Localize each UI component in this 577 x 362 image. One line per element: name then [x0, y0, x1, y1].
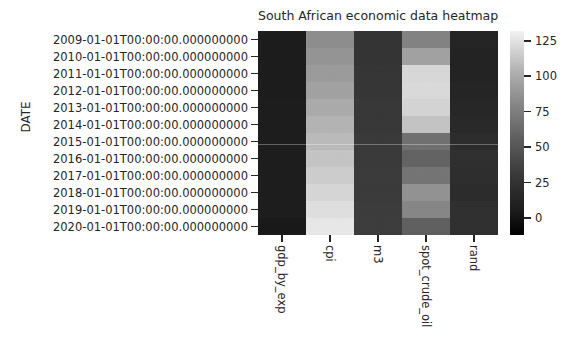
heatmap-cell[interactable]	[354, 167, 402, 184]
x-tick-label: m3	[371, 245, 385, 264]
heatmap-cell[interactable]	[258, 150, 306, 167]
y-tick-2014: 2014-01-01T00:00:00.000000000	[0, 118, 258, 132]
heatmap-column-m3[interactable]	[354, 31, 402, 235]
heatmap-cell[interactable]	[402, 31, 450, 48]
colorbar-tick-label: 75	[535, 105, 550, 119]
y-tick-mark	[251, 124, 258, 126]
heatmap-cell[interactable]	[450, 184, 498, 201]
y-tick-mark	[251, 141, 258, 143]
heatmap-figure: South African economic data heatmap DATE…	[0, 0, 577, 362]
colorbar-tick-label: 100	[535, 69, 557, 83]
x-tick-label: cpi	[323, 245, 337, 262]
heatmap-cell[interactable]	[258, 133, 306, 150]
heatmap-column-spot_crude_oil[interactable]	[402, 31, 450, 235]
y-tick-mark	[251, 56, 258, 58]
heatmap-cell[interactable]	[402, 133, 450, 150]
y-tick-2019: 2019-01-01T00:00:00.000000000	[0, 203, 258, 217]
heatmap-cell[interactable]	[354, 31, 402, 48]
heatmap-cell[interactable]	[306, 31, 354, 48]
x-tick-label: gdp_by_exp	[275, 245, 289, 313]
colorbar-tick-mark	[524, 40, 531, 42]
heatmap-column-rand[interactable]	[450, 31, 498, 235]
y-tick-mark	[251, 226, 258, 228]
heatmap-cell[interactable]	[354, 99, 402, 116]
heatmap-cell[interactable]	[354, 82, 402, 99]
heatmap-cell[interactable]	[402, 218, 450, 235]
heatmap-cell[interactable]	[450, 31, 498, 48]
x-tick-rand: rand	[450, 235, 498, 362]
heatmap-cell[interactable]	[258, 218, 306, 235]
heatmap-cell[interactable]	[354, 65, 402, 82]
y-tick-2009: 2009-01-01T00:00:00.000000000	[0, 33, 258, 47]
heatmap-cell[interactable]	[306, 218, 354, 235]
heatmap-cell[interactable]	[354, 150, 402, 167]
heatmap-cell[interactable]	[402, 82, 450, 99]
heatmap-cell[interactable]	[402, 184, 450, 201]
heatmap-cell[interactable]	[402, 150, 450, 167]
y-tick-2018: 2018-01-01T00:00:00.000000000	[0, 186, 258, 200]
heatmap-cell[interactable]	[354, 201, 402, 218]
heatmap-cell[interactable]	[306, 82, 354, 99]
colorbar-tick-label: 125	[535, 34, 557, 48]
heatmap-plot-area[interactable]	[258, 31, 498, 235]
heatmap-cell[interactable]	[258, 65, 306, 82]
heatmap-cell[interactable]	[450, 48, 498, 65]
heatmap-cell[interactable]	[402, 65, 450, 82]
heatmap-cell[interactable]	[306, 150, 354, 167]
heatmap-cell[interactable]	[450, 167, 498, 184]
y-tick-label: 2013-01-01T00:00:00.000000000	[53, 101, 248, 115]
heatmap-cell[interactable]	[258, 99, 306, 116]
y-tick-2017: 2017-01-01T00:00:00.000000000	[0, 169, 258, 183]
heatmap-cell[interactable]	[258, 31, 306, 48]
heatmap-cell[interactable]	[402, 48, 450, 65]
heatmap-column-cpi[interactable]	[306, 31, 354, 235]
heatmap-cell[interactable]	[306, 133, 354, 150]
x-tick-label: rand	[467, 245, 481, 271]
x-tick-label-wrap: rand	[467, 245, 481, 360]
heatmap-column-gdp_by_exp[interactable]	[258, 31, 306, 235]
y-tick-label: 2020-01-01T00:00:00.000000000	[53, 220, 248, 234]
heatmap-cell[interactable]	[306, 65, 354, 82]
heatmap-cell[interactable]	[450, 116, 498, 133]
x-tick-gdp_by_exp: gdp_by_exp	[258, 235, 306, 362]
heatmap-cell[interactable]	[354, 116, 402, 133]
heatmap-cell[interactable]	[354, 133, 402, 150]
heatmap-cell[interactable]	[306, 201, 354, 218]
heatmap-cell[interactable]	[450, 133, 498, 150]
heatmap-cell[interactable]	[450, 218, 498, 235]
heatmap-cell[interactable]	[402, 99, 450, 116]
colorbar-tick-125: 125	[510, 34, 577, 48]
heatmap-cell[interactable]	[402, 116, 450, 133]
heatmap-cell[interactable]	[450, 65, 498, 82]
heatmap-cell[interactable]	[306, 116, 354, 133]
y-tick-label: 2012-01-01T00:00:00.000000000	[53, 84, 248, 98]
heatmap-cell[interactable]	[354, 184, 402, 201]
heatmap-cell[interactable]	[450, 82, 498, 99]
heatmap-cell[interactable]	[402, 167, 450, 184]
heatmap-cell[interactable]	[354, 218, 402, 235]
heatmap-cell[interactable]	[306, 184, 354, 201]
heatmap-cell[interactable]	[306, 99, 354, 116]
heatmap-cell[interactable]	[258, 167, 306, 184]
heatmap-cell[interactable]	[402, 201, 450, 218]
heatmap-cell[interactable]	[258, 48, 306, 65]
x-tick-label-wrap: m3	[371, 245, 385, 360]
y-tick-2020: 2020-01-01T00:00:00.000000000	[0, 220, 258, 234]
heatmap-cell[interactable]	[306, 167, 354, 184]
y-tick-label: 2010-01-01T00:00:00.000000000	[53, 50, 248, 64]
x-tick-mark	[425, 235, 427, 242]
heatmap-cell[interactable]	[258, 201, 306, 218]
x-tick-mark	[281, 235, 283, 242]
heatmap-cell[interactable]	[258, 184, 306, 201]
heatmap-cell[interactable]	[258, 116, 306, 133]
heatmap-cell[interactable]	[258, 82, 306, 99]
heatmap-cell[interactable]	[450, 150, 498, 167]
colorbar-tick-75: 75	[510, 105, 577, 119]
y-tick-2015: 2015-01-01T00:00:00.000000000	[0, 135, 258, 149]
y-tick-mark	[251, 158, 258, 160]
heatmap-cell[interactable]	[450, 99, 498, 116]
heatmap-cell[interactable]	[306, 48, 354, 65]
heatmap-cell[interactable]	[354, 48, 402, 65]
y-tick-mark	[251, 175, 258, 177]
heatmap-cell[interactable]	[450, 201, 498, 218]
